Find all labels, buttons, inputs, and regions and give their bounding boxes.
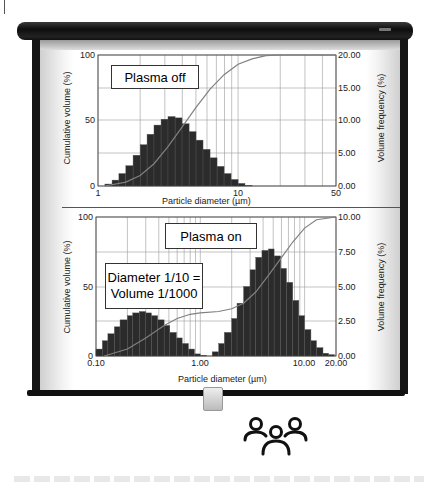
histogram-bar <box>212 352 218 356</box>
y-right-tick-label: 5.00 <box>338 282 356 292</box>
histogram-bar <box>245 185 252 186</box>
y-left-tick-label: 100 <box>78 212 93 222</box>
histogram-bar <box>293 300 299 356</box>
note-line-2: Volume 1/1000 <box>111 286 198 302</box>
y-right-tick-label: 0.00 <box>338 181 356 191</box>
histogram-bar <box>139 312 145 356</box>
y-left-tick-label: 50 <box>83 282 93 292</box>
histogram-bar <box>316 348 322 356</box>
histogram-bar <box>140 145 147 186</box>
top-chart-label: Plasma off <box>124 70 185 85</box>
histogram-bar <box>219 343 225 356</box>
bottom-ylabel-right: Volume frequency (%) <box>376 232 386 342</box>
histogram-bar <box>299 316 305 356</box>
histogram-bar <box>256 257 262 356</box>
y-right-tick-label: 15.00 <box>338 83 361 93</box>
y-right-tick-label: 2.50 <box>338 316 356 326</box>
x-tick-label: 10.00 <box>293 358 316 368</box>
histogram-bar <box>262 250 268 356</box>
histogram-bar <box>281 268 287 356</box>
histogram-bar <box>119 174 126 186</box>
histogram-bar <box>133 155 140 186</box>
figure-caption-faint <box>14 476 424 482</box>
histogram-bar <box>237 303 244 356</box>
histogram-bar <box>224 174 231 186</box>
histogram-bar <box>168 117 175 186</box>
y-left-tick-label: 0 <box>88 351 93 361</box>
top-ylabel-right: Volume frequency (%) <box>376 63 386 173</box>
y-left-tick-label: 0 <box>90 181 95 191</box>
top-ylabel-left: Cumulative volume (%) <box>62 63 72 173</box>
histogram-bar <box>147 134 154 186</box>
histogram-bar <box>329 355 335 356</box>
histogram-bar <box>250 270 256 356</box>
bottom-ylabel-left: Cumulative volume (%) <box>62 232 72 342</box>
histogram-bar <box>232 318 237 356</box>
histogram-bar <box>133 313 140 356</box>
histogram-bar <box>182 343 188 356</box>
histogram-bar <box>189 132 196 186</box>
histogram-bar <box>196 140 203 186</box>
histogram-bar <box>170 332 177 356</box>
histogram-bar <box>200 355 206 356</box>
bottom-chart-note-box: Diameter 1/10 = Volume 1/1000 <box>105 263 203 309</box>
top-chart-label-box: Plasma off <box>111 65 199 89</box>
people-group-icon <box>243 416 309 456</box>
histogram-bar <box>182 124 189 186</box>
histogram-bar <box>164 325 170 356</box>
histogram-bar <box>188 349 194 356</box>
y-right-tick-label: 5.00 <box>338 148 356 158</box>
histogram-bar <box>210 158 217 186</box>
y-right-tick-label: 10.00 <box>338 115 361 125</box>
histogram-bar <box>224 332 231 356</box>
bottom-chart-label-box: Plasma on <box>165 223 257 249</box>
histogram-bar <box>274 256 281 356</box>
histogram-bar <box>244 287 250 357</box>
y-right-tick-label: 7.50 <box>338 247 356 257</box>
histogram-bar <box>102 341 108 356</box>
y-right-tick-label: 10.00 <box>338 212 361 222</box>
histogram-bar <box>268 249 274 356</box>
top-xlabel: Particle diameter (µm) <box>162 196 251 206</box>
histogram-bar <box>311 341 317 356</box>
histogram-bar <box>126 166 133 186</box>
x-tick-label: 1 <box>95 188 100 198</box>
y-left-tick-label: 100 <box>80 50 95 60</box>
histogram-bar <box>96 349 102 356</box>
histogram-bar <box>151 316 157 356</box>
histogram-bar <box>203 149 210 186</box>
x-tick-label: 1.00 <box>191 358 209 368</box>
y-right-tick-label: 0.00 <box>338 351 356 361</box>
y-right-tick-label: 20.00 <box>338 50 361 60</box>
histogram-bar <box>127 316 132 356</box>
histogram-bar <box>286 282 292 356</box>
note-line-1: Diameter 1/10 = <box>108 270 201 286</box>
histogram-bar <box>161 119 168 186</box>
histogram-bar <box>158 320 164 356</box>
bottom-xlabel: Particle diameter (µm) <box>178 374 267 384</box>
histogram-bar <box>231 179 238 186</box>
histogram-bar <box>323 353 329 356</box>
bottom-chart-label: Plasma on <box>180 229 241 244</box>
histogram-bar <box>176 338 182 356</box>
histogram-bar <box>217 166 224 186</box>
histogram-bar <box>195 354 201 356</box>
histogram-bar <box>305 330 311 356</box>
y-left-tick-label: 50 <box>85 115 95 125</box>
histogram-bar <box>238 183 245 186</box>
